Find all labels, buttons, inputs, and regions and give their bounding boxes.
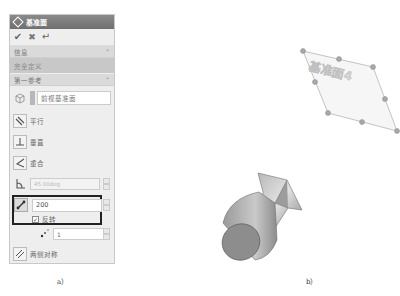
reverse-row[interactable]: ✓ 反转	[32, 214, 56, 224]
distance-row: 200	[14, 198, 102, 212]
reference-selection-row: 前视基准面	[10, 86, 114, 110]
dialog-toolbar: ✔ ✖ ↵	[10, 29, 114, 46]
datum-plane-dialog: 基准面 ✔ ✖ ↵ 信息 ⌃ 完全定义 第一参考 ⌃ 前视基准面 平行 垂直	[9, 14, 115, 264]
coincident-icon[interactable]	[13, 156, 27, 170]
count-spinner[interactable]	[103, 228, 110, 240]
info-section-header[interactable]: 信息 ⌃	[10, 46, 114, 58]
symmetric-option[interactable]: 两侧对称	[13, 247, 58, 261]
option-perpendicular[interactable]: 垂直	[10, 131, 114, 152]
selection-color-swatch	[30, 91, 35, 105]
option-parallel[interactable]: 平行	[10, 110, 114, 131]
cancel-icon[interactable]: ✖	[27, 32, 37, 42]
info-status: 完全定义	[10, 58, 114, 73]
reverse-checkbox[interactable]: ✓	[32, 216, 39, 223]
option-coincident[interactable]: 重合	[10, 152, 114, 173]
angle-spinner[interactable]	[103, 178, 110, 190]
angle-row: 45.00deg	[10, 173, 114, 194]
distance-spinner[interactable]	[103, 199, 110, 211]
angle-field[interactable]: 45.00deg	[30, 178, 100, 190]
caption-a: a）	[57, 276, 68, 286]
datum-plane-preview[interactable]: 基准面4	[295, 40, 400, 140]
parallel-label: 平行	[30, 116, 44, 126]
first-reference-header[interactable]: 第一参考 ⌃	[10, 74, 114, 86]
collapse-icon[interactable]: ⌃	[105, 76, 110, 83]
distance-field[interactable]: 200	[32, 199, 102, 212]
dialog-titlebar: 基准面	[10, 15, 114, 29]
datum-plane-icon	[12, 16, 23, 27]
dialog-title: 基准面	[26, 17, 47, 27]
count-field[interactable]: 1	[53, 228, 105, 240]
apply-icon[interactable]: ↵	[41, 32, 51, 42]
ok-icon[interactable]: ✔	[13, 32, 23, 42]
parallel-icon[interactable]	[13, 114, 27, 128]
symmetric-label: 两侧对称	[30, 249, 58, 259]
first-reference-title: 第一参考	[14, 75, 42, 85]
coincident-label: 重合	[30, 158, 44, 168]
perpendicular-icon[interactable]	[13, 135, 27, 149]
plane-cube-icon	[13, 91, 27, 105]
info-section-title: 信息	[14, 47, 28, 57]
symmetric-icon[interactable]	[13, 247, 27, 261]
reference-plane-field[interactable]: 前视基准面	[37, 91, 111, 105]
pattern-count-icon	[40, 228, 50, 240]
3d-model[interactable]	[215, 168, 310, 263]
distance-icon[interactable]	[14, 198, 28, 212]
count-row: 1	[40, 228, 105, 240]
reverse-label: 反转	[42, 214, 56, 224]
perpendicular-label: 垂直	[30, 137, 44, 147]
collapse-icon[interactable]: ⌃	[105, 48, 110, 55]
caption-b: b）	[306, 276, 317, 286]
angle-icon[interactable]	[13, 177, 27, 191]
